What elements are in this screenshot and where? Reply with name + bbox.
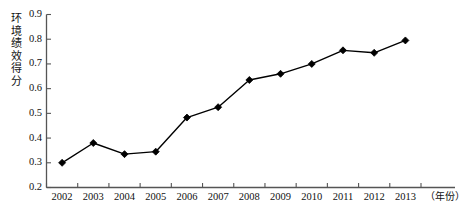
data-point-marker (339, 47, 346, 54)
data-point-marker (308, 60, 315, 67)
data-point-marker (121, 151, 128, 158)
data-point-marker (277, 70, 284, 77)
line-chart: 环境绩效得分 0.90.80.70.60.50.40.30.2 20022003… (0, 0, 464, 220)
data-point-marker (59, 159, 66, 166)
data-line (62, 40, 405, 162)
data-point-marker (90, 140, 97, 147)
data-point-marker (371, 49, 378, 56)
plot-area (0, 0, 464, 220)
data-point-marker (402, 37, 409, 44)
